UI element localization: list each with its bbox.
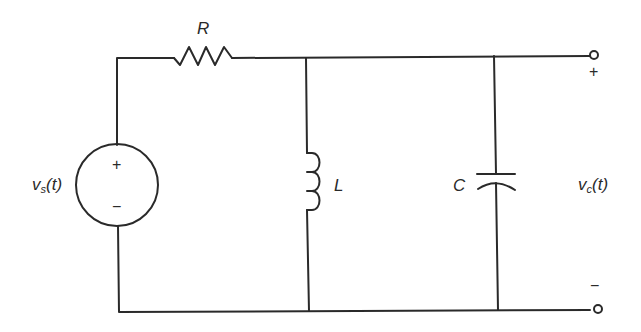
output-minus-sign: − (590, 278, 599, 294)
wire-inductor-bottom (307, 210, 309, 311)
wire-left-bottom (118, 226, 590, 312)
inductor-symbol (307, 153, 320, 210)
wire-top-right (232, 56, 590, 58)
output-terminal-minus (594, 305, 602, 313)
resistor-label: R (197, 20, 209, 37)
output-voltage-label: vc(t) (578, 176, 608, 195)
inductor-label: L (334, 177, 343, 194)
wire-capacitor-top (494, 56, 496, 174)
source-minus-sign: − (112, 199, 121, 215)
source-plus-sign: + (112, 157, 121, 173)
source-voltage-label: vs(t) (32, 176, 62, 195)
wire-inductor-top (306, 58, 307, 153)
output-plus-sign: + (589, 64, 598, 80)
wire-top-left (117, 58, 174, 145)
capacitor-label: C (453, 177, 465, 194)
output-terminal-plus (590, 51, 598, 59)
wire-capacitor-bottom (496, 183, 498, 310)
circuit-canvas (0, 0, 641, 332)
resistor-symbol (174, 47, 232, 65)
